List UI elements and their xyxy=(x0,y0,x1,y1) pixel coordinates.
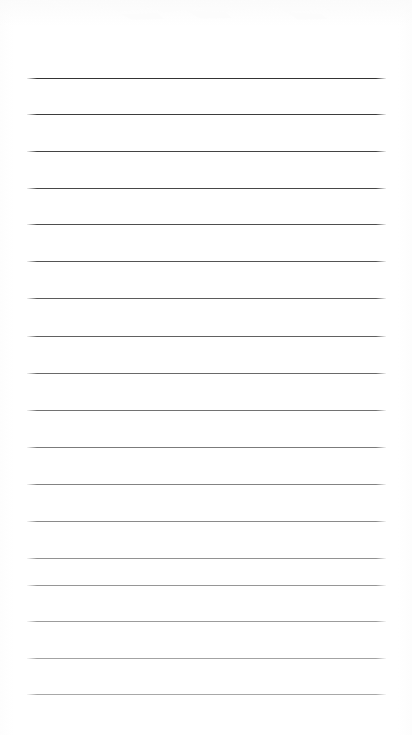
rule-line xyxy=(27,336,386,337)
ruled-writing-area xyxy=(0,0,412,735)
rule-line xyxy=(27,694,386,695)
rule-line xyxy=(27,484,386,485)
rule-line xyxy=(27,447,386,448)
rule-line xyxy=(27,373,386,374)
rule-line xyxy=(27,261,386,262)
rule-line xyxy=(27,521,386,522)
rule-line xyxy=(27,151,386,152)
rule-line xyxy=(27,410,386,411)
rule-line xyxy=(27,585,386,586)
scanned-page xyxy=(0,0,412,735)
rule-line xyxy=(27,78,386,79)
rule-line xyxy=(27,621,386,622)
rule-line xyxy=(27,658,386,659)
rule-line xyxy=(27,188,386,189)
rule-line xyxy=(27,298,386,299)
rule-line xyxy=(27,224,386,225)
rule-line xyxy=(27,114,386,115)
rule-line xyxy=(27,558,386,559)
